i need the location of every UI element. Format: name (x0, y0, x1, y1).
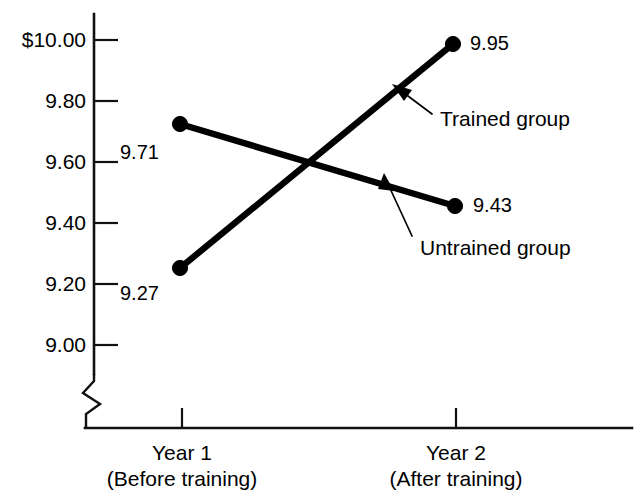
line-chart-figure: $10.00 9.80 9.60 9.40 9.20 9.00 9.71 9.2… (0, 0, 643, 492)
y-axis-label-9-40: 9.40 (0, 212, 86, 233)
series-line-untrained-group (180, 124, 455, 206)
y-axis-label-9-20: 9.20 (0, 273, 86, 294)
y-axis-label-9-80: 9.80 (0, 90, 86, 111)
point-label-untrained-year-2: 9.43 (473, 195, 512, 215)
marker-trained-year-1 (172, 260, 187, 275)
point-label-trained-year-2: 9.95 (470, 33, 509, 53)
x-axis-category-year-1: Year 1 (Before training) (62, 440, 302, 491)
x-axis-category-year-1-sub: (Before training) (62, 466, 302, 492)
x-axis-category-year-2-sub: (After training) (336, 466, 576, 492)
y-axis-label-9-00: 9.00 (0, 334, 86, 355)
annotation-untrained-group: Untrained group (420, 237, 571, 258)
point-label-untrained-year-1: 9.71 (120, 142, 159, 162)
marker-trained-year-2 (445, 36, 460, 51)
annotation-trained-group: Trained group (440, 108, 570, 129)
y-axis-label-10-00: $10.00 (0, 29, 86, 50)
y-axis-label-9-60: 9.60 (0, 151, 86, 172)
marker-untrained-year-2 (447, 198, 462, 213)
y-axis-break-icon (83, 374, 100, 428)
marker-untrained-year-1 (172, 116, 187, 131)
point-label-trained-year-1: 9.27 (120, 283, 159, 303)
x-axis-category-year-1-main: Year 1 (152, 441, 212, 464)
x-axis-category-year-2-main: Year 2 (426, 441, 486, 464)
x-axis-category-year-2: Year 2 (After training) (336, 440, 576, 491)
